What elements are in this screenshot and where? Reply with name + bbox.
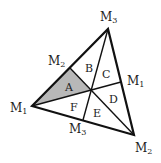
label-midpoint-right-edge: M1	[127, 74, 144, 89]
label-vertex-left: M1	[10, 101, 27, 116]
label-vertex-top: M3	[100, 10, 117, 25]
diagram-canvas: M1 M3 M2 M2 M1 M3 A B C D E F	[0, 0, 161, 163]
label-midpoint-left-edge: M2	[48, 54, 65, 69]
region-label-a: A	[64, 81, 74, 94]
label-vertex-bottom: M2	[135, 141, 152, 156]
region-label-d: D	[109, 93, 118, 106]
region-label-b: B	[85, 62, 93, 75]
region-label-c: C	[102, 68, 110, 81]
triangle-medians-diagram: M1 M3 M2 M2 M1 M3 A B C D E F	[0, 0, 161, 163]
region-label-e: E	[93, 107, 101, 120]
label-midpoint-bottom-edge: M3	[69, 122, 86, 137]
region-label-f: F	[70, 101, 78, 114]
region-a-shading	[32, 68, 91, 106]
